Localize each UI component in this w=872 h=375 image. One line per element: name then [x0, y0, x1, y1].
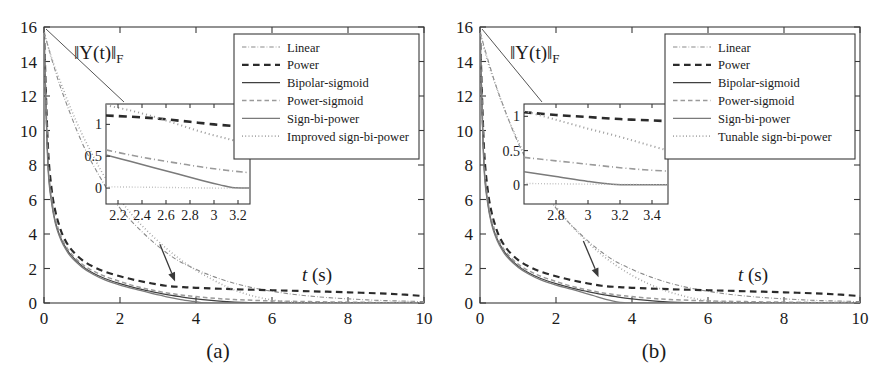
- legend: LinearPowerBipolar-sigmoidPower-sigmoidS…: [234, 34, 419, 159]
- y-tick-label: 14: [20, 53, 38, 72]
- legend-label: Improved sign-bi-power: [287, 130, 410, 144]
- y-tick-label: 8: [29, 156, 38, 175]
- legend-label: Linear: [287, 41, 320, 55]
- inset-x-tick-label: 3.4: [643, 208, 661, 223]
- y-tick-label: 12: [20, 87, 37, 106]
- x-axis-title: t (s): [738, 264, 768, 286]
- inset-y-tick-label: 1: [513, 109, 520, 124]
- chart-panel-a: 02468100246810121416‖Y(t)‖Ft (s)(a)2.22.…: [0, 0, 436, 375]
- y-tick-label: 8: [465, 156, 474, 175]
- legend-label: Bipolar-sigmoid: [287, 76, 369, 90]
- y-tick-label: 0: [29, 294, 38, 313]
- y-tick-label: 4: [29, 225, 38, 244]
- y-tick-label: 12: [456, 87, 473, 106]
- x-tick-label: 4: [628, 309, 637, 328]
- y-tick-label: 10: [456, 122, 473, 141]
- x-tick-label: 10: [416, 309, 433, 328]
- inset-axes: 2.22.42.62.833.200.51: [46, 29, 250, 223]
- y-axis-title: ‖Y(t)‖F: [510, 42, 560, 66]
- y-tick-label: 16: [456, 18, 473, 37]
- legend-label: Power-sigmoid: [718, 94, 795, 108]
- x-tick-label: 2: [116, 309, 125, 328]
- y-tick-label: 16: [20, 18, 37, 37]
- x-tick-label: 6: [268, 309, 277, 328]
- legend-label: Power: [287, 58, 320, 72]
- legend-label: Power-sigmoid: [287, 94, 364, 108]
- x-tick-label: 0: [476, 309, 485, 328]
- y-tick-label: 10: [20, 122, 37, 141]
- inset-y-tick-label: 0: [513, 178, 520, 193]
- legend-label: Bipolar-sigmoid: [718, 76, 800, 90]
- x-tick-label: 6: [704, 309, 713, 328]
- y-tick-label: 14: [456, 53, 474, 72]
- x-tick-label: 8: [344, 309, 353, 328]
- inset-x-tick-label: 2.2: [109, 208, 127, 223]
- x-tick-label: 2: [552, 309, 561, 328]
- plot-svg: 02468100246810121416‖Y(t)‖Ft (s)(b)2.833…: [436, 0, 872, 375]
- legend-label: Power: [718, 58, 751, 72]
- legend-label: Sign-bi-power: [287, 112, 360, 126]
- inset-x-tick-label: 3.2: [611, 208, 629, 223]
- zoom-annotation-arrow: [160, 244, 175, 281]
- x-tick-label: 8: [780, 309, 789, 328]
- arrow-head-icon: [168, 272, 175, 282]
- inset-leader-line: [482, 29, 542, 102]
- x-axis-title: t (s): [302, 264, 332, 286]
- panel-caption: (a): [206, 339, 229, 363]
- chart-panel-b: 02468100246810121416‖Y(t)‖Ft (s)(b)2.833…: [436, 0, 872, 375]
- y-tick-label: 6: [465, 191, 474, 210]
- legend-label: Linear: [718, 41, 751, 55]
- inset-x-tick-label: 2.8: [181, 208, 199, 223]
- y-tick-label: 2: [465, 260, 474, 279]
- inset-x-tick-label: 3: [585, 208, 592, 223]
- x-tick-label: 0: [40, 309, 49, 328]
- legend-label: Sign-bi-power: [718, 112, 791, 126]
- x-tick-label: 10: [852, 309, 869, 328]
- legend-label: Tunable sign-bi-power: [718, 130, 833, 144]
- inset-leader-line: [46, 29, 124, 102]
- inset-x-tick-label: 3: [211, 208, 218, 223]
- inset-x-tick-label: 2.6: [157, 208, 175, 223]
- y-tick-label: 6: [29, 191, 38, 210]
- y-tick-label: 0: [465, 294, 474, 313]
- y-tick-label: 4: [465, 225, 474, 244]
- x-tick-label: 4: [192, 309, 201, 328]
- inset-y-tick-label: 0.5: [85, 149, 103, 164]
- legend: LinearPowerBipolar-sigmoidPower-sigmoidS…: [665, 34, 855, 159]
- inset-x-tick-label: 2.4: [133, 208, 151, 223]
- panel-caption: (b): [642, 339, 667, 363]
- zoom-annotation-arrow: [583, 241, 598, 277]
- inset-x-tick-label: 2.8: [547, 208, 565, 223]
- inset-y-tick-label: 0: [95, 181, 102, 196]
- y-tick-label: 2: [29, 260, 38, 279]
- figure-container: 02468100246810121416‖Y(t)‖Ft (s)(a)2.22.…: [0, 0, 872, 375]
- inset-x-tick-label: 3.2: [229, 208, 247, 223]
- inset-y-tick-label: 0.5: [503, 144, 521, 159]
- arrow-head-icon: [592, 267, 599, 277]
- inset-y-tick-label: 1: [95, 117, 102, 132]
- inset-frame: [106, 104, 250, 204]
- plot-svg: 02468100246810121416‖Y(t)‖Ft (s)(a)2.22.…: [0, 0, 436, 375]
